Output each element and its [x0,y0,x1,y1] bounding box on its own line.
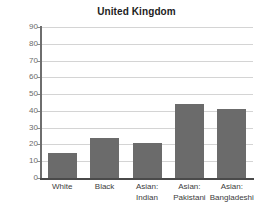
x-tick-label-line1: White [52,182,72,191]
y-axis-spine [40,26,42,179]
y-tick-label: 70 [4,57,38,65]
y-tick-label: 0 [4,174,38,182]
bar [217,109,246,178]
bar [133,143,162,178]
gridline [41,61,253,62]
gridline [41,94,253,95]
x-tick-label: Asian:Bangladeshi [207,181,257,203]
x-tick-label-line1: Asian: [221,182,243,191]
y-tick-label: 40 [4,107,38,115]
gridline [41,77,253,78]
bar [175,104,204,178]
y-axis-tick-labels: 9080706050403020100 [0,0,38,211]
y-tick-label: 60 [4,73,38,81]
y-tick-label: 10 [4,157,38,165]
gridline [41,44,253,45]
y-tick-label: 50 [4,90,38,98]
x-tick-label-line1: Black [95,182,115,191]
bar [48,153,77,178]
y-tick-label: 80 [4,40,38,48]
bar-chart: United Kingdom 9080706050403020100 White… [0,0,273,211]
gridline [41,27,253,28]
x-tick-label-line2: Bangladeshi [207,192,257,203]
plot-area [41,27,253,178]
chart-title: United Kingdom [0,6,273,17]
x-tick-label-line1: Asian: [178,182,200,191]
y-tick-label: 90 [4,23,38,31]
x-tick-label-line1: Asian: [136,182,158,191]
bar [90,138,119,178]
y-tick-label: 20 [4,140,38,148]
y-tick-label: 30 [4,124,38,132]
x-axis-tick-labels: WhiteBlackAsian:IndianAsian:PakistaniAsi… [41,181,253,211]
x-axis-baseline [40,178,254,180]
